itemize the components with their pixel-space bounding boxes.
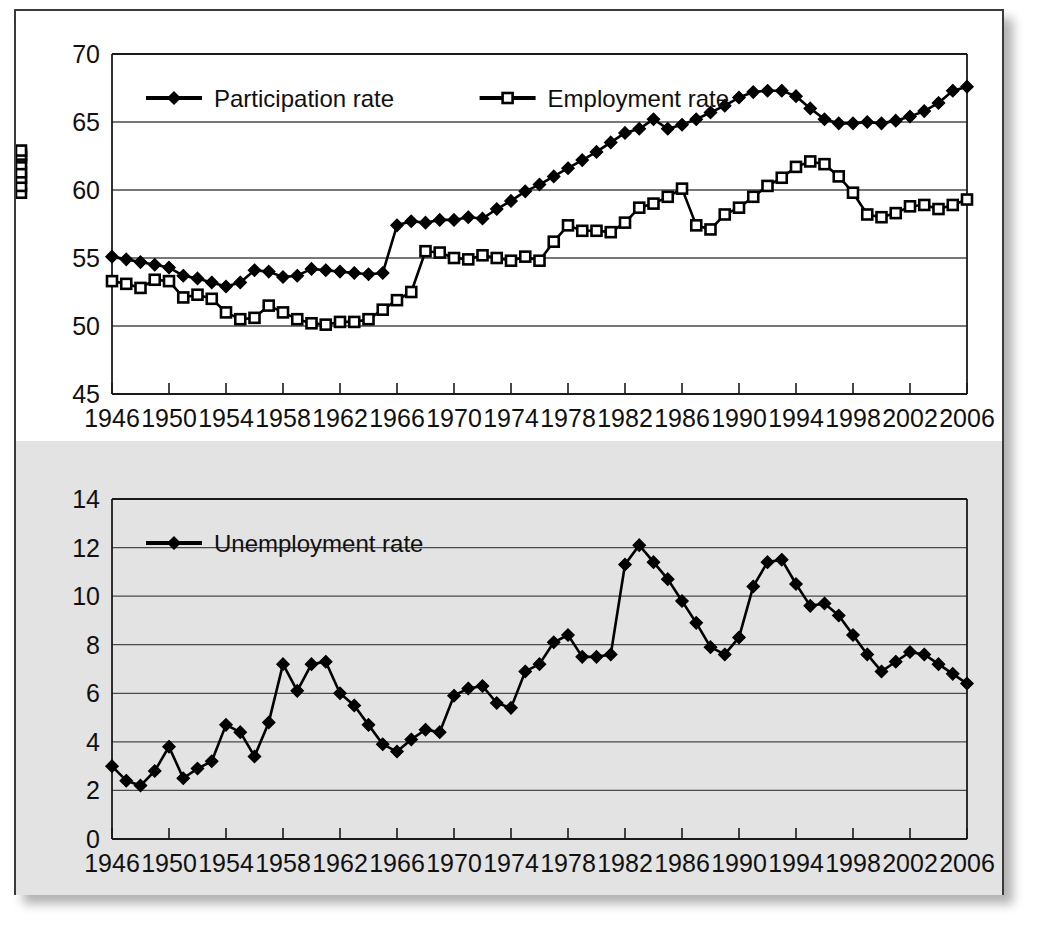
data-point-marker [590, 651, 602, 663]
data-point-marker [164, 276, 174, 286]
x-axis-tick-label: 1954 [198, 404, 254, 432]
legend-item[interactable]: Participation rate [146, 85, 394, 112]
data-point-marker [263, 265, 275, 277]
legend-label: Employment rate [548, 85, 729, 112]
data-point-marker [234, 726, 246, 738]
x-axis-tick-label: 1946 [84, 404, 140, 432]
data-point-marker [163, 261, 175, 273]
data-point-marker [250, 313, 260, 323]
legend-label: Participation rate [214, 85, 394, 112]
y-axis-tick-label: 10 [72, 582, 100, 610]
data-point-marker [291, 685, 303, 697]
x-axis-tick-label: 1998 [825, 404, 881, 432]
data-point-marker [478, 250, 488, 260]
y-axis-tick-label: 65 [72, 108, 100, 136]
x-axis-tick-label: 1994 [768, 404, 824, 432]
x-axis-tick-label: 2006 [939, 849, 995, 877]
data-point-marker [875, 117, 887, 129]
data-point-marker [948, 200, 958, 210]
chart-page: 4550556065701946195019541958196219661970… [0, 0, 1039, 933]
data-point-marker [377, 267, 389, 279]
data-point-marker [178, 292, 188, 302]
data-point-marker [492, 253, 502, 263]
data-point-marker [362, 268, 374, 280]
x-axis-tick-label: 1998 [825, 849, 881, 877]
data-point-marker [405, 215, 417, 227]
data-point-marker [747, 86, 759, 98]
data-point-marker [206, 276, 218, 288]
x-axis-tick-label: 1982 [597, 404, 653, 432]
x-axis-tick-label: 1990 [711, 849, 767, 877]
x-axis-tick-label: 1986 [654, 849, 710, 877]
x-axis-tick-label: 1966 [369, 849, 425, 877]
x-axis-tick-label: 1986 [654, 404, 710, 432]
figure-panel: 4550556065701946195019541958196219661970… [14, 9, 1004, 895]
x-axis-tick-label: 1950 [141, 849, 197, 877]
data-point-marker [191, 272, 203, 284]
data-point-marker [168, 92, 180, 104]
data-point-marker [748, 192, 758, 202]
data-point-marker [918, 105, 930, 117]
x-axis-tick-label: 1946 [84, 849, 140, 877]
data-point-marker [777, 173, 787, 183]
bottom-chart-svg: 0246810121419461950195419581962196619701… [16, 441, 1002, 895]
data-point-marker [291, 269, 303, 281]
x-axis-tick-label: 1954 [198, 849, 254, 877]
data-point-marker [776, 85, 788, 97]
y-axis-tick-label: 6 [86, 679, 100, 707]
data-point-marker [548, 170, 560, 182]
x-axis-tick-label: 1966 [369, 404, 425, 432]
data-point-marker [334, 265, 346, 277]
x-axis-tick-label: 2002 [882, 849, 938, 877]
data-point-marker [435, 248, 445, 258]
data-point-marker [763, 181, 773, 191]
legend-item[interactable]: Employment rate [480, 85, 729, 112]
x-axis-tick-label: 2002 [882, 404, 938, 432]
data-point-marker [605, 648, 617, 660]
y-axis-tick-label: 60 [72, 176, 100, 204]
data-point-marker [448, 690, 460, 702]
data-point-marker [833, 117, 845, 129]
data-point-marker [848, 188, 858, 198]
data-point-marker [149, 259, 161, 271]
data-point-marker [649, 199, 659, 209]
data-point-marker [592, 226, 602, 236]
legend-item[interactable]: Unemployment rate [146, 530, 423, 557]
data-point-marker [834, 171, 844, 181]
data-point-marker [107, 276, 117, 286]
x-axis-tick-label: 1958 [255, 849, 311, 877]
data-point-marker [207, 294, 217, 304]
data-point-marker [305, 658, 317, 670]
data-point-marker [519, 665, 531, 677]
data-point-marker [419, 216, 431, 228]
x-axis-tick-label: 1950 [141, 404, 197, 432]
data-point-marker [221, 307, 231, 317]
x-axis-tick-label: 1962 [312, 849, 368, 877]
data-point-marker [905, 201, 915, 211]
data-point-marker [563, 220, 573, 230]
data-point-marker [533, 178, 545, 190]
x-axis-tick-label: 1962 [312, 404, 368, 432]
data-point-marker [761, 85, 773, 97]
data-point-marker [364, 314, 374, 324]
data-point-marker [791, 162, 801, 172]
x-axis-tick-label: 1978 [540, 404, 596, 432]
data-point-marker [348, 267, 360, 279]
data-point-marker [321, 320, 331, 330]
data-point-marker [919, 200, 929, 210]
data-point-marker [264, 301, 274, 311]
data-point-marker [506, 256, 516, 266]
data-point-marker [562, 162, 574, 174]
data-point-marker [535, 256, 545, 266]
data-point-marker [349, 317, 359, 327]
data-point-marker [577, 226, 587, 236]
y-axis-tick-label: 70 [72, 40, 100, 68]
data-point-marker [549, 237, 559, 247]
unemployment-chart: 0246810121419461950195419581962196619701… [16, 441, 1002, 895]
x-axis-tick-label: 1974 [483, 404, 539, 432]
data-point-marker [733, 91, 745, 103]
data-point-marker [720, 209, 730, 219]
data-point-marker [634, 203, 644, 213]
x-axis-tick-label: 2006 [939, 404, 995, 432]
data-point-marker [734, 203, 744, 213]
